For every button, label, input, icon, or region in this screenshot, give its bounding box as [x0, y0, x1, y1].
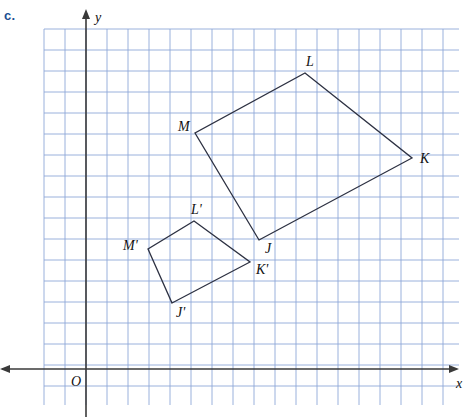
vertex-label-K: K [419, 151, 430, 166]
vertex-label-M: M [177, 119, 191, 134]
vertex-label-J: J [265, 241, 272, 256]
vertex-label-Kprime: K' [255, 262, 269, 277]
x-axis-arrow-right-icon [449, 365, 459, 373]
axes-group: y x O [0, 9, 463, 417]
vertex-label-Lprime: L' [190, 202, 203, 217]
y-axis-label: y [93, 10, 102, 25]
x-axis-label: x [455, 376, 463, 391]
origin-label: O [71, 374, 81, 389]
y-axis-arrow-icon [82, 9, 90, 19]
polygon-JKLM [195, 73, 412, 240]
polygon-JprimeKprimeLprimeMprime [148, 221, 250, 303]
vertex-label-Mprime: M' [122, 238, 139, 253]
coordinate-plane: y x O JKLMJ'K'L'M' [0, 0, 471, 417]
vertex-label-L: L [305, 54, 314, 69]
vertex-label-Jprime: J' [176, 305, 186, 320]
vertex-labels-group: JKLMJ'K'L'M' [122, 54, 430, 320]
grid-lines [44, 29, 459, 405]
x-axis-arrow-left-icon [0, 365, 10, 373]
figure-root: c. y x O JKLMJ'K'L'M' [0, 0, 471, 417]
polygons-group [148, 73, 412, 303]
